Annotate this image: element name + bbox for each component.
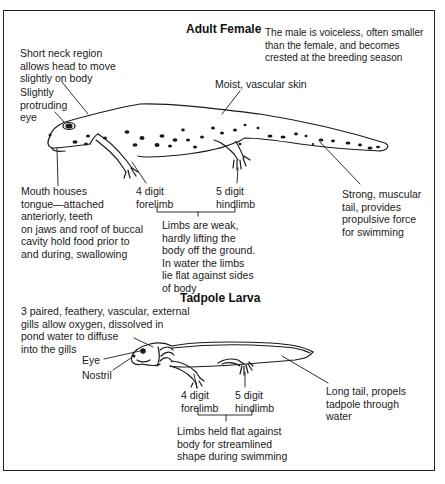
tadpole-larva-title: Tadpole Larva — [180, 291, 260, 305]
neck-region-label: Short neck region allows head to move sl… — [20, 47, 116, 85]
larva-forelimb-label: 4 digit forelimb — [181, 389, 218, 414]
adult-female-title: Adult Female — [186, 22, 261, 36]
mouth-label: Mouth houses tongue—attached anteriorly,… — [21, 185, 143, 260]
adult-forelimb-label: 4 digit forelimb — [136, 185, 173, 210]
male-note-label: The male is voiceless, often smaller tha… — [265, 27, 423, 65]
adult-limbs-note: Limbs are weak, hardly lifting the body … — [162, 219, 255, 294]
tail-label: Strong, muscular tail, provides propulsi… — [342, 188, 421, 238]
larva-limbs-note: Limbs held flat against body for streaml… — [177, 425, 287, 463]
larva-tail-label: Long tail, propels tadpole through water — [326, 385, 406, 423]
larva-hindlimb-label: 5 digit hindlimb — [235, 389, 274, 414]
adult-hindlimb-label: 5 digit hindlimb — [216, 185, 255, 210]
larva-nostril-label: Nostril — [82, 369, 112, 382]
eye-label: Slightly protruding eye — [20, 86, 67, 124]
skin-label: Moist, vascular skin — [215, 78, 307, 91]
adult-newt-drawing — [48, 104, 388, 178]
larva-eye-label: Eye — [82, 354, 100, 367]
gills-label: 3 paired, feathery, vascular, external g… — [21, 305, 189, 355]
